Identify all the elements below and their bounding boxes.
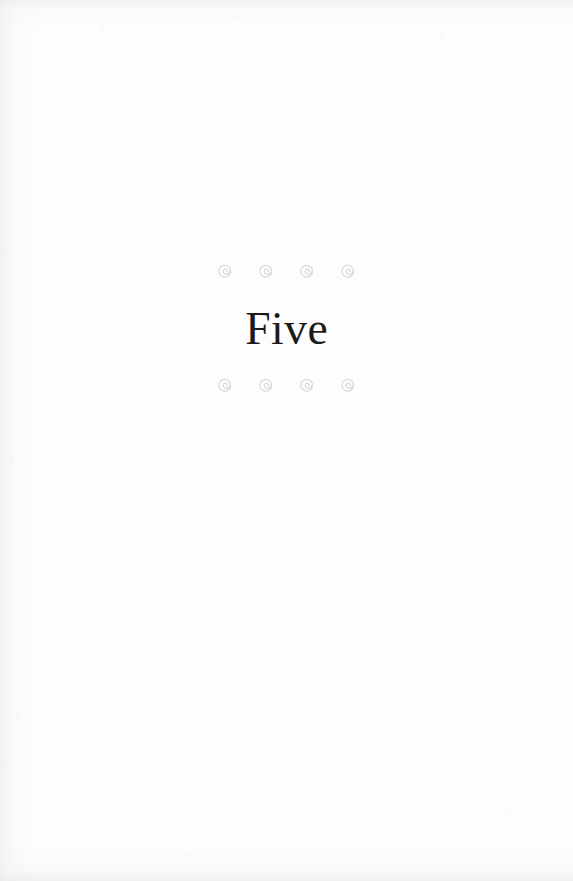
chapter-opening-block: Five (0, 262, 573, 394)
chapter-title: Five (245, 305, 328, 352)
scan-edge-artifact-bottom (0, 847, 573, 881)
spiral-ornament (298, 262, 316, 280)
scan-edge-artifact-top (0, 0, 573, 26)
ornament-row-top (215, 262, 358, 280)
spiral-ornament (257, 262, 275, 280)
paper-tone-layer (0, 0, 573, 881)
spiral-ornament (339, 376, 357, 394)
spiral-ornament (339, 262, 357, 280)
spiral-ornament (257, 376, 275, 394)
book-page: Five (0, 0, 573, 881)
page-gutter-shading (0, 0, 46, 881)
spiral-ornament (216, 262, 234, 280)
scan-speckle-texture (0, 0, 573, 881)
chapter-title-row: Five (244, 280, 330, 376)
spiral-ornament (216, 376, 234, 394)
ornament-row-bottom (215, 376, 358, 394)
spiral-ornament (298, 376, 316, 394)
